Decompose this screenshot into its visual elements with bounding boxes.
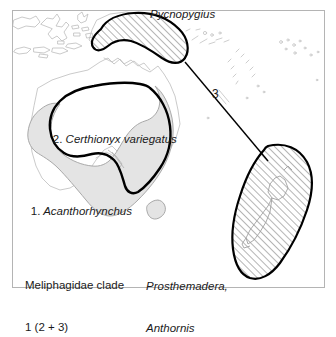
label-anthornis: Anthornis <box>146 321 228 335</box>
label-acanthorhynchus-species-text: Acanthorhynchus <box>43 205 132 217</box>
label-pycnopygius: Pycnopygius <box>150 7 215 21</box>
label-acanthorhynchus-number: 1. <box>31 205 41 217</box>
label-prosthemadera: Prosthemadera, <box>146 279 228 293</box>
label-acanthorhynchus: 1. Acanthorhynchus <box>18 190 132 232</box>
label-acanthorhynchus-species: Acanthorhynchus <box>40 205 132 217</box>
label-certhionyx-number: 2. <box>53 133 63 145</box>
label-certhionyx-variegatus: 2. Certhionyx variegatus <box>40 118 177 160</box>
label-meliphagidae-clade: Meliphagidae clade 1 (2 + 3) <box>25 250 124 337</box>
label-connector-number: 3 <box>212 87 219 102</box>
label-clade-line2: 1 (2 + 3) <box>25 320 124 334</box>
label-certhionyx-species-text: Certhionyx variegatus <box>66 133 177 145</box>
label-newzealand-taxa: Prosthemadera, Anthornis <box>146 251 228 337</box>
label-clade-line1: Meliphagidae clade <box>25 278 124 292</box>
label-certhionyx-species: Certhionyx variegatus <box>62 133 176 145</box>
